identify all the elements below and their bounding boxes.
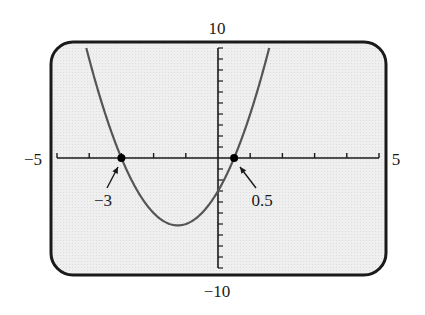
root-label-left: −3 bbox=[94, 191, 112, 210]
chart-canvas: 10 −10 −5 5 −3 0.5 bbox=[0, 0, 425, 315]
y-max-label: 10 bbox=[209, 19, 226, 38]
y-min-label: −10 bbox=[204, 282, 231, 301]
x-min-label: −5 bbox=[24, 150, 42, 169]
root-point bbox=[230, 154, 238, 162]
root-label-right: 0.5 bbox=[251, 191, 272, 210]
root-point bbox=[117, 154, 125, 162]
x-max-label: 5 bbox=[392, 150, 401, 169]
graphing-calculator-screen: 10 −10 −5 5 −3 0.5 bbox=[0, 0, 425, 315]
